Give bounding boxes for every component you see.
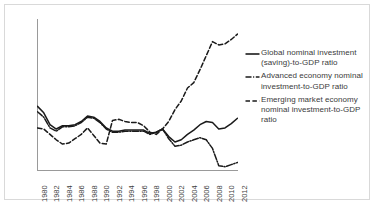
x-axis-tick-label: 1996 <box>141 185 149 202</box>
x-axis-tick-label: 2004 <box>191 185 199 202</box>
y-axis: 1921232527293133 <box>0 0 33 212</box>
x-axis-tick-label: 2002 <box>178 185 186 202</box>
legend-entry[interactable]: Global nominal investment (saving)-to-GD… <box>245 48 371 68</box>
data-series-group <box>38 34 238 167</box>
series-line-2 <box>38 112 238 167</box>
series-line-3 <box>38 34 238 144</box>
legend-line-swatch-dashdot-icon <box>245 71 260 82</box>
series-line-1 <box>38 106 238 142</box>
chart-legend: Global nominal investment (saving)-to-GD… <box>245 48 371 128</box>
axis-lines <box>37 19 238 171</box>
legend-label: Global nominal investment (saving)-to-GD… <box>261 48 371 68</box>
x-axis-tick-label: 1986 <box>78 185 86 202</box>
x-axis-tick-label: 1998 <box>153 185 161 202</box>
chart-figure: 1921232527293133 19801982198419861988199… <box>0 0 375 212</box>
x-axis-tick-label: 1994 <box>128 185 136 202</box>
plot-svg <box>37 19 238 171</box>
legend-entry[interactable]: Emerging market economy nominal investme… <box>245 95 371 126</box>
x-axis-tick-label: 1984 <box>66 185 74 202</box>
x-axis-tick-label: 2012 <box>241 185 249 202</box>
x-axis-tick-label: 1980 <box>41 185 49 202</box>
legend-label: Emerging market economy nominal investme… <box>261 95 371 126</box>
x-axis-tick-label: 2000 <box>166 185 174 202</box>
legend-label: Advanced economy nominal investment-to-G… <box>261 71 371 91</box>
x-axis-tick-label: 2008 <box>216 185 224 202</box>
x-axis-tick-label: 2010 <box>228 185 236 202</box>
x-axis-tick-label: 1982 <box>53 185 61 202</box>
x-axis-tick-label: 1992 <box>116 185 124 202</box>
plot-area <box>37 19 238 171</box>
x-axis-tick-label: 2006 <box>203 185 211 202</box>
legend-line-swatch-solid-icon <box>245 48 260 59</box>
legend-entry[interactable]: Advanced economy nominal investment-to-G… <box>245 71 371 91</box>
x-axis: 1980198219841986198819901992199419961998… <box>37 172 242 210</box>
x-axis-tick-label: 1988 <box>91 185 99 202</box>
x-axis-tick-label: 1990 <box>103 185 111 202</box>
legend-line-swatch-dashed-icon <box>245 95 260 106</box>
